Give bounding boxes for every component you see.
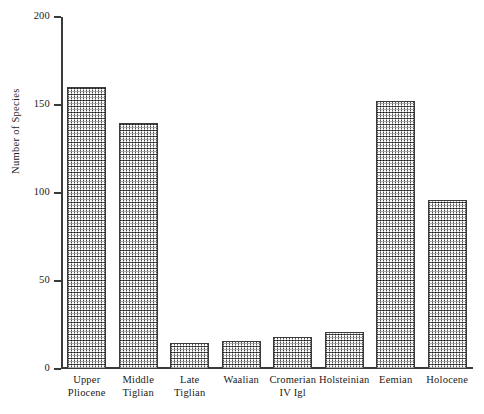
bar-chart-figure: Number of Species 050100150200 UpperPlio… [0,0,484,414]
bar [170,343,209,369]
x-tick-label: Holocene [418,374,478,387]
y-tick-mark [54,368,61,370]
bar [428,200,467,369]
x-tick-label-line1: Eemian [379,374,412,385]
x-tick-label-line1: Middle [122,374,154,385]
x-tick-label-line1: Late [180,374,199,385]
bar [376,101,415,369]
x-tick-label-line2: Tiglian [160,387,220,400]
bar [119,123,158,369]
x-tick-label-line1: Cromerian [269,374,316,385]
bar [325,332,364,369]
x-axis-labels: UpperPlioceneMiddleTiglianLateTiglianWaa… [61,374,473,414]
bar [67,87,106,369]
y-tick-label: 150 [0,99,50,110]
x-tick-label-line2: IV Igl [263,387,323,400]
bar [222,341,261,369]
bar [273,337,312,369]
y-axis-title: Number of Species [10,160,21,174]
y-tick-label: 50 [0,275,50,286]
y-tick-mark [54,104,61,106]
plot-area [61,17,473,369]
y-tick-label: 200 [0,11,50,22]
x-tick-label-line1: Holocene [426,374,468,385]
x-tick-label-line1: Holsteinian [319,374,370,385]
y-tick-label: 100 [0,187,50,198]
x-tick-label-line1: Waalian [223,374,259,385]
y-tick-mark [54,280,61,282]
y-tick-mark [54,192,61,194]
y-tick-label: 0 [0,363,50,374]
x-tick-label-line1: Upper [73,374,100,385]
y-tick-mark [54,16,61,18]
